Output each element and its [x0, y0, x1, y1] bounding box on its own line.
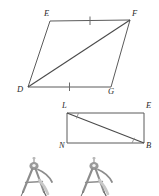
vertex-label-l: L [62, 101, 67, 110]
compass-pencil-point [44, 192, 46, 196]
vertex-label-n: N [59, 141, 65, 150]
compass-left-leg [23, 169, 32, 192]
compass-graphic [81, 157, 112, 196]
parallelogram-defg-figure: E F D G [0, 0, 159, 100]
vertex-label-d: D [17, 85, 23, 94]
diagonal-lb [67, 113, 144, 143]
compass-left-leg [83, 169, 92, 192]
geometry-figure-page: E F D G L E N B [0, 0, 159, 196]
rectangle-svg [0, 100, 159, 152]
compass-left-svg [13, 156, 65, 196]
diagonal-df [28, 20, 130, 87]
compass-graphic [21, 157, 52, 196]
vertex-label-g: G [108, 87, 114, 96]
compass-left [13, 156, 65, 196]
compass-right-svg [73, 156, 125, 196]
vertex-label-f: F [132, 9, 137, 18]
segment-de [28, 21, 50, 87]
rectangle-lenb-figure: L E N B [0, 100, 159, 152]
compass-screw-icon [92, 157, 95, 159]
vertex-label-b: B [146, 141, 151, 150]
compass-screw-icon [32, 157, 35, 159]
compass-hinge-hole-icon [92, 164, 95, 167]
vertex-label-e: E [44, 9, 49, 18]
compass-right [73, 156, 125, 196]
compass-hinge-hole-icon [32, 164, 35, 167]
vertex-label-e2: E [146, 101, 151, 110]
compass-pencil-point [104, 192, 106, 196]
